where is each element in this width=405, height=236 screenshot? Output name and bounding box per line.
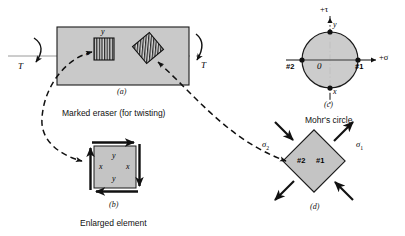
- mohr-point-x: [327, 85, 332, 90]
- principal-face-2-label: #2: [297, 157, 305, 165]
- mohr-point-y-label: y: [333, 21, 337, 29]
- mohr-point-1-label: #1: [355, 63, 363, 71]
- panel-d-tag: (d): [310, 203, 319, 211]
- panel-b-element-group: [91, 143, 140, 192]
- sigma2-arrow-upper-left: [275, 122, 293, 140]
- principal-face-1-label: #1: [316, 157, 324, 165]
- panel-c-caption: Mohr's circle: [305, 116, 352, 125]
- mohr-point-y: [327, 29, 332, 34]
- enlarged-element-label-top: y: [112, 152, 116, 160]
- mohr-tau-arrowhead: [327, 18, 332, 23]
- enlarged-element-label-right: x: [126, 163, 130, 171]
- sigma1-arrow-lower-left: [275, 181, 294, 200]
- sigma1-subscript: 1: [360, 145, 363, 151]
- sigma2-arrow-lower-right: [335, 182, 353, 200]
- sigma2-subscript: 2: [266, 145, 269, 151]
- bar-element-y-label: y: [101, 28, 105, 36]
- torque-arrow-left: [34, 38, 41, 62]
- panel-b-tag: (b): [109, 201, 118, 209]
- torque-label-right: T: [201, 61, 206, 70]
- mohr-sigma-arrowhead: [371, 57, 376, 62]
- panel-a-caption: Marked eraser (for twisting): [62, 109, 165, 118]
- bar-element-upright: [94, 38, 114, 60]
- mohr-point-x-label: x: [333, 88, 337, 96]
- bar-rectangle: [57, 27, 189, 85]
- bar-element-x-label: x: [86, 49, 90, 57]
- panel-a-tag: (a): [117, 88, 126, 96]
- panel-b-caption: Enlarged element: [80, 219, 147, 228]
- mohr-sigma-axis-label: +σ: [379, 53, 388, 62]
- panel-c-mohr-group: [286, 16, 376, 104]
- torque-label-left: T: [18, 62, 23, 71]
- sigma1-label: σ1: [356, 140, 363, 151]
- panel-d-principal-group: [275, 122, 353, 200]
- sigma2-label: σ2: [262, 140, 269, 151]
- mohr-origin-label: 0: [317, 62, 322, 71]
- mohr-point-2: [299, 57, 304, 62]
- mohr-tau-axis-label: +τ: [320, 5, 328, 14]
- figure-torsion-mohrs-circle: T T y x (a) Marked eraser (for twisting)…: [0, 0, 405, 236]
- mohr-point-2-label: #2: [286, 63, 294, 71]
- panel-c-tag: (c): [324, 101, 333, 109]
- enlarged-element-label-bottom: y: [112, 175, 116, 183]
- enlarged-element-label-left: x: [99, 163, 103, 171]
